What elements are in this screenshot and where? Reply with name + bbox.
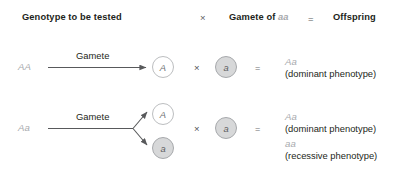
row-2-gamete-circle-A: A — [152, 103, 174, 125]
header-equals-operator: = — [308, 13, 314, 24]
row-2-gamete-arrow-branch-up — [133, 112, 147, 129]
row-2-offspring-genotype-2: aa — [285, 138, 296, 149]
row-2-genotype-label: Aa — [18, 122, 30, 133]
test-cross-diagram: Genotype to be tested × Gamete of aa = O… — [0, 0, 408, 170]
row-1-partner-gamete-circle-a: a — [215, 56, 237, 78]
header-gamete-of-label: Gamete of — [229, 12, 278, 22]
header-gamete-of-aa: Gamete of aa — [229, 12, 289, 22]
header-gamete-genotype: aa — [278, 12, 289, 22]
row-2-equals-operator: = — [255, 124, 260, 134]
row-2-cross-operator: × — [194, 123, 200, 134]
row-1-gamete-allele-label: A — [160, 62, 166, 73]
header-genotype-to-be-tested: Genotype to be tested — [22, 12, 122, 22]
row-2-gamete-arrow-label: Gamete — [76, 111, 109, 122]
row-2-offspring-phenotype-1: (dominant phenotype) — [285, 123, 376, 134]
row-1-gamete-arrow-label: Gamete — [76, 50, 109, 61]
row-2-gamete-allele-label-A: A — [160, 109, 166, 120]
row-1-cross-operator: × — [194, 62, 200, 73]
row-2-gamete-allele-label-a: a — [160, 143, 165, 154]
row-2-partner-gamete-circle-a: a — [215, 117, 237, 139]
header-cross-operator: × — [200, 12, 206, 23]
row-2-gamete-circle-a: a — [152, 137, 174, 159]
row-2-offspring-genotype-1: Aa — [285, 111, 297, 122]
row-2-partner-gamete-allele-label: a — [223, 123, 228, 134]
row-1-partner-gamete-allele-label: a — [223, 62, 228, 73]
arrow-layer — [0, 0, 408, 170]
row-2-offspring-phenotype-2: (recessive phenotype) — [285, 150, 377, 161]
row-2-gamete-arrow-branch-down — [133, 129, 147, 146]
row-1-offspring-genotype: Aa — [285, 56, 297, 67]
row-1-offspring-phenotype: (dominant phenotype) — [285, 68, 376, 79]
header-offspring: Offspring — [333, 12, 376, 22]
row-1-genotype-label: AA — [18, 61, 31, 72]
row-1-gamete-circle-A: A — [152, 56, 174, 78]
row-1-equals-operator: = — [255, 63, 260, 73]
